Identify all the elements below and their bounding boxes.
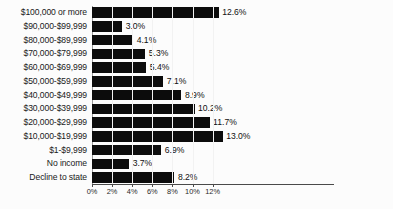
category-label: $40,000-$49,999 bbox=[0, 89, 87, 103]
category-label: $70,000-$79,999 bbox=[0, 47, 87, 61]
x-tick-label: 6% bbox=[147, 187, 158, 196]
bar bbox=[92, 49, 145, 60]
category-label: $60,000-$69,999 bbox=[0, 61, 87, 75]
x-tick-label: 12% bbox=[205, 187, 220, 196]
bar-value-label: 5.3% bbox=[145, 47, 168, 61]
bar-value-label: 3.0% bbox=[122, 20, 145, 34]
category-label: $100,000 or more bbox=[0, 6, 87, 20]
bar-value-label: 13.0% bbox=[223, 130, 251, 144]
gridline-overlay-8pct bbox=[172, 6, 173, 185]
category-label: $30,000-$39,999 bbox=[0, 102, 87, 116]
gridline-overlay-6pct bbox=[152, 6, 153, 185]
bar bbox=[92, 159, 129, 170]
category-label: $80,000-$89,999 bbox=[0, 34, 87, 48]
category-label: $50,000-$59,999 bbox=[0, 75, 87, 89]
x-tick-label: 2% bbox=[107, 187, 118, 196]
gridline-overlay-4pct bbox=[132, 6, 133, 185]
bar-value-label: 10.2% bbox=[195, 102, 223, 116]
category-label: $1-$9,999 bbox=[0, 144, 87, 158]
x-tick-label: 0% bbox=[87, 187, 98, 196]
bar bbox=[92, 62, 146, 73]
gridline-overlay-2pct bbox=[112, 6, 113, 185]
bar-value-label: 5.4% bbox=[146, 61, 169, 75]
gridline-overlay-10pct bbox=[193, 6, 194, 185]
category-label: $90,000-$99,999 bbox=[0, 20, 87, 34]
category-label: $20,000-$29,999 bbox=[0, 116, 87, 130]
bar-value-label: 11.7% bbox=[210, 116, 237, 130]
bar-value-label: 8.2% bbox=[174, 171, 197, 185]
category-label: $10,000-$19,999 bbox=[0, 130, 87, 144]
bar bbox=[92, 90, 181, 101]
bar bbox=[92, 172, 174, 183]
x-tick-label: 10% bbox=[185, 187, 200, 196]
gridline-overlay-12pct bbox=[213, 6, 214, 185]
bar bbox=[92, 145, 161, 156]
bar bbox=[92, 7, 219, 18]
x-tick-label: 4% bbox=[127, 187, 138, 196]
category-label: Decline to state bbox=[0, 171, 87, 185]
bar-value-label: 12.6% bbox=[219, 6, 247, 20]
bar bbox=[92, 21, 122, 32]
bar-value-label: 7.1% bbox=[163, 75, 186, 89]
category-label: No income bbox=[0, 157, 87, 171]
income-distribution-bar-chart: $100,000 or more12.6%$90,000-$99,9993.0%… bbox=[0, 0, 393, 209]
bar bbox=[92, 104, 195, 115]
x-tick-label: 8% bbox=[167, 187, 178, 196]
plot-area: $100,000 or more12.6%$90,000-$99,9993.0%… bbox=[92, 6, 333, 185]
